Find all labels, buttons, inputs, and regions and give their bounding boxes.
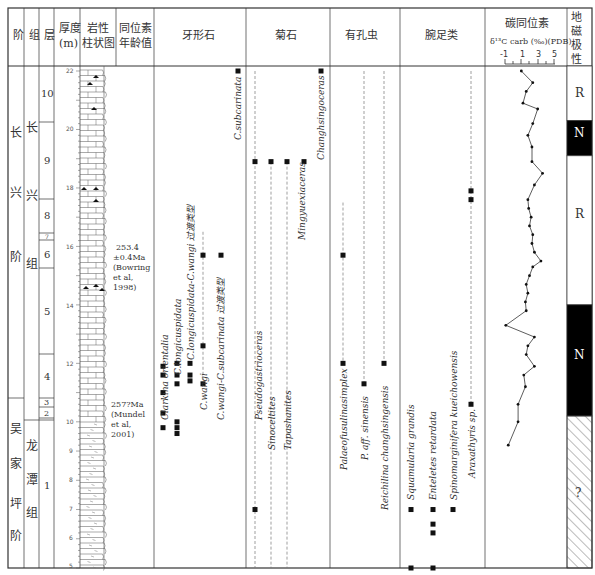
taxon-reichilina-changhsingensis: Reichilina changhsingensis [380, 385, 390, 511]
polarity-unknown: ? [575, 486, 581, 500]
svg-text:9: 9 [69, 447, 73, 454]
svg-text:22: 22 [66, 67, 74, 74]
header-magnetic-3: 极 [571, 38, 582, 52]
svg-text:257?Ma: 257?Ma [111, 400, 144, 409]
taxon-c-wangi-c-subcarinata: C.wangi-C.subcarinata 过渡类型 [216, 277, 226, 420]
taxon-enteletes-retardata: Enteletes retardata [428, 411, 438, 501]
taxon-clarkina-orientalia: Clarkina orientalia [160, 334, 170, 420]
taxon-squamularia-grandis: Squamularia grandis [406, 404, 416, 500]
header-brachiopods: 腕足类 [425, 28, 458, 42]
taxon-c-wangi: C.wangi [199, 373, 209, 410]
header-lithology-1: 岩性 [87, 21, 109, 35]
header-thickness: 厚度 [59, 21, 81, 35]
taxon-c-longicuspidata: C.longicuspidata [173, 299, 183, 375]
lithology-column [80, 66, 106, 571]
svg-text:兴: 兴 [26, 189, 38, 203]
svg-text:1: 1 [520, 50, 525, 59]
header-thickness-unit: (m) [59, 37, 78, 50]
svg-text:18: 18 [66, 184, 74, 191]
header-carbon-isotope-unit: δ¹³C carb (‰)(PDB) [490, 37, 572, 46]
bed-labels: 10 9 8 7 6 5 4 3 2 1 [41, 88, 54, 491]
bed-2: 2 [44, 409, 49, 418]
taxon-pseudogastrioceras: Pseudogastrioceras [254, 330, 264, 421]
svg-text:组: 组 [26, 257, 38, 271]
polarity-n-lower: N [574, 348, 585, 362]
header-foraminifera: 有孔虫 [345, 28, 378, 42]
svg-text:(Bowring: (Bowring [113, 263, 150, 272]
header-bed: 层 [44, 29, 55, 42]
svg-text:2001): 2001) [111, 430, 134, 439]
bed-9: 9 [44, 155, 50, 166]
conodont-labels: Clarkina orientalia C.longicuspidata C.l… [160, 77, 243, 420]
svg-text:吴: 吴 [10, 422, 22, 436]
svg-text:3: 3 [536, 50, 541, 59]
bed-10: 10 [41, 88, 54, 99]
svg-text:10: 10 [66, 418, 74, 425]
taxon-p-aff-sinensis: P. aff. sinensis [360, 396, 370, 461]
brachiopod-labels: Squamularia grandis Enteletes retardata … [406, 350, 477, 501]
svg-text:龙: 龙 [26, 439, 38, 453]
bed-4: 4 [44, 371, 50, 382]
taxon-mingyuexiaceras: Mingyuexiaceras [297, 162, 307, 241]
taxon-c-subcarinata: C.subcarinata [233, 77, 243, 140]
svg-text:et al,: et al, [113, 273, 133, 282]
svg-text:1998): 1998) [113, 283, 136, 292]
svg-text:±0.4Ma: ±0.4Ma [113, 253, 146, 262]
header-conodonts: 牙形石 [182, 29, 215, 42]
carbon-isotope-curve [504, 70, 544, 447]
svg-text:(Mundel: (Mundel [111, 410, 145, 419]
taxon-palaeofusulina-simplex: Palaeofusulinasimplex [339, 368, 349, 471]
bed-7: 7 [45, 233, 49, 240]
header-magnetic-2: 磁 [571, 25, 582, 38]
bed-5: 5 [44, 306, 50, 317]
bed-8: 8 [44, 210, 50, 221]
svg-text:20: 20 [66, 125, 74, 132]
svg-text:7: 7 [69, 505, 73, 512]
header-magnetic-4: 性 [571, 52, 582, 66]
header-lithology-2: 柱状图 [82, 36, 115, 50]
svg-text:12: 12 [66, 360, 74, 367]
header-magnetic-1: 地 [571, 11, 582, 24]
depth-scale: 22201816 1412109 8765 [66, 66, 80, 569]
stage-changhsingian: 长 兴 阶 [10, 126, 22, 264]
stage-wuchiapingian: 吴 家 坪 阶 [10, 422, 22, 543]
formation-longtan: 龙 潭 组 [26, 439, 38, 520]
taxon-spinomarginifera-kueichowensis: Spinomarginifera kueichowensis [449, 350, 459, 500]
header-formation: 组 [29, 28, 40, 42]
bed-1: 1 [44, 480, 50, 491]
foraminifera-labels: Palaeofusulinasimplex P. aff. sinensis R… [339, 368, 390, 511]
header-ammonoids: 菊石 [275, 29, 297, 42]
svg-text:8: 8 [69, 476, 73, 483]
taxon-c-longicuspidata-c-wangi: C.longicuspidata-C.wangi 过渡类型 [186, 204, 196, 360]
header-isotope-age-1: 同位素 [119, 21, 152, 35]
svg-text:6: 6 [69, 534, 73, 541]
svg-text:et al,: et al, [111, 420, 131, 429]
polarity-r-middle: R [575, 207, 585, 221]
svg-text:兴: 兴 [10, 186, 22, 200]
svg-text:14: 14 [66, 302, 74, 309]
svg-text:长: 长 [26, 121, 38, 135]
header-stage: 阶 [13, 28, 24, 42]
svg-text:5: 5 [552, 50, 557, 59]
svg-text:坪: 坪 [10, 497, 22, 511]
svg-text:5: 5 [69, 562, 73, 569]
carbon-axis: -1135 [500, 50, 557, 64]
svg-text:16: 16 [66, 243, 74, 250]
isotope-age-bowring: 253.4 ±0.4Ma (Bowring et al, 1998) [113, 243, 150, 292]
svg-text:家: 家 [10, 456, 22, 471]
bed-3: 3 [44, 398, 49, 407]
bed-6: 6 [44, 249, 50, 260]
ammonoid-labels: Pseudogastrioceras Sinoceltites Tapashan… [254, 75, 326, 450]
taxon-sinoceltites: Sinoceltites [267, 396, 277, 450]
svg-text:潭: 潭 [26, 473, 38, 487]
svg-text:253.4: 253.4 [116, 243, 139, 252]
svg-text:长: 长 [10, 126, 22, 140]
formation-changxing: 长 兴 组 [26, 121, 38, 271]
header-row: 阶 组 层 厚度 (m) 岩性 柱状图 同位素 年龄值 牙形石 菊石 有孔虫 腕… [13, 11, 582, 66]
taxon-tapashanites: Tapashanites [283, 390, 293, 450]
stratigraphic-chart: 阶 组 层 厚度 (m) 岩性 柱状图 同位素 年龄值 牙形石 菊石 有孔虫 腕… [0, 0, 595, 575]
svg-text:组: 组 [26, 506, 38, 520]
svg-text:阶: 阶 [10, 529, 22, 543]
polarity-n-upper: N [574, 126, 585, 140]
header-isotope-age-2: 年龄值 [119, 36, 152, 50]
